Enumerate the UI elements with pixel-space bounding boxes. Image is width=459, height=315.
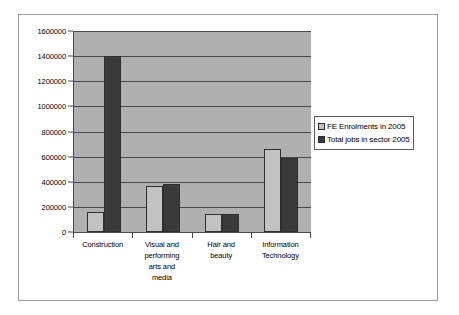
x-axis-ticks bbox=[73, 233, 311, 238]
y-axis: 0200000400000600000800000100000012000001… bbox=[19, 31, 73, 233]
y-tick-label: 0 bbox=[62, 228, 66, 237]
x-category-label-line: Information bbox=[251, 239, 310, 250]
y-tick-label: 1000000 bbox=[38, 102, 67, 111]
bar bbox=[104, 56, 121, 232]
y-tick-label: 1400000 bbox=[38, 52, 67, 61]
bar bbox=[87, 212, 104, 232]
x-category-label: InformationTechnology bbox=[251, 239, 310, 261]
y-tick-label: 600000 bbox=[42, 152, 66, 161]
y-tick-label: 400000 bbox=[42, 177, 66, 186]
bar bbox=[281, 158, 298, 232]
plot-area bbox=[73, 31, 311, 233]
x-category-label: Construction bbox=[73, 239, 132, 250]
y-tick-label: 1600000 bbox=[38, 27, 67, 36]
bar bbox=[163, 184, 180, 232]
y-tick-label: 800000 bbox=[42, 127, 66, 136]
x-tick-mark bbox=[132, 233, 133, 238]
x-category-label-line: Hair and bbox=[192, 239, 251, 250]
legend-swatch-icon bbox=[318, 136, 325, 143]
x-category-label-line: performing bbox=[132, 250, 191, 261]
chart-legend: FE Enrolments in 2005Total jobs in secto… bbox=[314, 116, 414, 150]
x-tick-mark bbox=[192, 233, 193, 238]
chart-frame: 0200000400000600000800000100000012000001… bbox=[18, 14, 438, 301]
legend-swatch-icon bbox=[318, 123, 325, 130]
legend-item-label: FE Enrolments in 2005 bbox=[327, 122, 405, 131]
x-tick-mark bbox=[73, 233, 74, 238]
legend-item[interactable]: FE Enrolments in 2005 bbox=[318, 120, 410, 133]
y-gridline bbox=[74, 31, 311, 32]
x-category-label-line: media bbox=[132, 272, 191, 283]
y-tick-label: 200000 bbox=[42, 202, 66, 211]
bar bbox=[264, 149, 281, 232]
bar bbox=[222, 214, 239, 232]
x-tick-mark bbox=[251, 233, 252, 238]
x-category-label-line: Construction bbox=[73, 239, 132, 250]
legend-item[interactable]: Total jobs in sector 2005 bbox=[318, 133, 410, 146]
x-category-label-line: arts and bbox=[132, 261, 191, 272]
x-category-label-line: Visual and bbox=[132, 239, 191, 250]
x-tick-mark bbox=[310, 233, 311, 238]
x-category-label-line: Technology bbox=[251, 250, 310, 261]
y-tick-label: 1200000 bbox=[38, 77, 67, 86]
x-category-label-line: beauty bbox=[192, 250, 251, 261]
bar bbox=[146, 186, 163, 232]
x-category-label: Hair andbeauty bbox=[192, 239, 251, 261]
bar bbox=[205, 214, 222, 232]
legend-item-label: Total jobs in sector 2005 bbox=[327, 135, 410, 144]
x-category-label: Visual andperformingarts andmedia bbox=[132, 239, 191, 283]
